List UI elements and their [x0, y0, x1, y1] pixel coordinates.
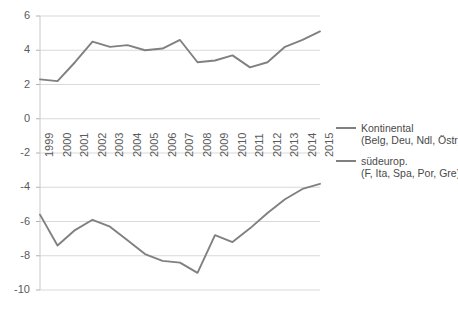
x-axis-tick-label: 2011 — [254, 133, 265, 157]
y-axis-tick-label: 6 — [4, 10, 30, 21]
x-axis-tick-label: 1999 — [44, 132, 55, 156]
x-axis-tick-label: 2003 — [114, 132, 125, 156]
x-axis-tick-label: 2007 — [184, 132, 195, 156]
axis-tick-marks — [36, 16, 40, 290]
x-axis-tick-label: 2010 — [237, 132, 248, 156]
x-axis-tick-label: 2014 — [307, 132, 318, 156]
x-axis-tick-label: 2004 — [132, 132, 143, 156]
legend-item-kontinental: Kontinental (Belg, Deu, Ndl, Östr) — [336, 122, 458, 147]
data-series-line-1 — [40, 184, 320, 273]
x-axis-tick-label: 2005 — [149, 132, 160, 156]
x-axis-tick-label: 2006 — [167, 132, 178, 156]
y-axis-tick-label: 4 — [4, 44, 30, 55]
y-axis-tick-label: -6 — [4, 216, 30, 227]
y-axis-tick-label: 2 — [4, 79, 30, 90]
x-axis-tick-label: 2000 — [62, 132, 73, 156]
y-axis-tick-label: -8 — [4, 250, 30, 261]
y-axis-tick-label: -10 — [4, 284, 30, 295]
x-axis-tick-label: 2013 — [289, 132, 300, 156]
legend-detail-kontinental: (Belg, Deu, Ndl, Östr) — [361, 134, 458, 147]
x-axis-tick-label: 2015 — [324, 132, 335, 156]
x-axis-tick-label: 2002 — [97, 132, 108, 156]
legend-line-swatch-suedeurop — [336, 160, 356, 162]
x-axis-tick-label: 2008 — [202, 132, 213, 156]
x-axis-tick-label: 2009 — [219, 132, 230, 156]
legend-label-kontinental: Kontinental — [361, 122, 414, 134]
y-axis-tick-label: -2 — [4, 147, 30, 158]
y-axis-tick-label: 0 — [4, 113, 30, 124]
chart-legend: Kontinental (Belg, Deu, Ndl, Östr) südeu… — [336, 122, 458, 188]
x-axis-tick-label: 2012 — [272, 132, 283, 156]
x-axis-tick-label: 2001 — [79, 132, 90, 156]
data-series-line-0 — [40, 31, 320, 81]
y-axis-tick-label: -4 — [4, 181, 30, 192]
legend-item-suedeurop: südeurop. (F, Ita, Spa, Por, Gre) — [336, 155, 458, 180]
chart-container: 6420-2-4-6-8-10 199920002001200220032004… — [0, 0, 458, 310]
legend-label-suedeurop: südeurop. — [361, 155, 408, 167]
legend-line-swatch-kontinental — [336, 127, 356, 129]
legend-detail-suedeurop: (F, Ita, Spa, Por, Gre) — [361, 167, 458, 180]
